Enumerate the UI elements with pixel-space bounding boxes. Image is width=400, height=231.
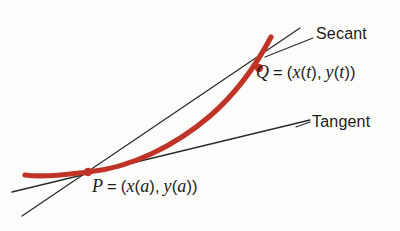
parametric-curve <box>25 37 271 176</box>
point-p-label: P=(x(a),y(a)) <box>92 177 198 195</box>
point-p-close-paren: ) <box>192 177 198 195</box>
point-q-comma: , <box>317 63 322 81</box>
point-q-name: Q <box>256 62 269 82</box>
point-p-y-function: y <box>164 176 172 196</box>
point-q-equals: = <box>273 63 283 81</box>
figure-container: Secant Tangent Q=(x(t),y(t)) P=(x(a),y(a… <box>0 0 400 231</box>
tangent-label: Tangent <box>312 114 370 130</box>
point-p-name: P <box>92 176 103 196</box>
point-p-comma: , <box>155 177 160 195</box>
point-p-marker <box>84 168 92 176</box>
point-q-label: Q=(x(t),y(t)) <box>256 63 356 81</box>
point-q-close-paren: ) <box>350 63 356 81</box>
point-p-x-arg: a <box>140 176 149 196</box>
point-q-x-function: x <box>292 62 300 82</box>
secant-label: Secant <box>316 26 367 42</box>
point-p-equals: = <box>107 177 117 195</box>
point-q-y-function: y <box>326 62 334 82</box>
point-p-x-function: x <box>126 176 134 196</box>
